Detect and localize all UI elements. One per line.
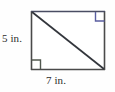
height-dimension-label: 5 in. (2, 33, 22, 44)
geometry-figure: 5 in. 7 in. (0, 0, 115, 92)
width-dimension-label: 7 in. (46, 75, 66, 86)
